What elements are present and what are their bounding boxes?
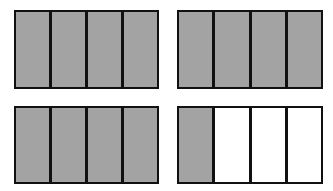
shaded-part	[124, 12, 157, 87]
shaded-part	[52, 108, 85, 182]
shaded-part	[88, 108, 121, 182]
shaded-part	[16, 12, 49, 87]
shaded-part	[179, 12, 212, 87]
fraction-bar-4	[177, 106, 323, 184]
shaded-part	[215, 12, 248, 87]
shaded-part	[288, 12, 321, 87]
unshaded-part	[215, 108, 248, 182]
shaded-part	[52, 12, 85, 87]
unshaded-part	[252, 108, 285, 182]
shaded-part	[252, 12, 285, 87]
fraction-bar-2	[177, 10, 323, 89]
unshaded-part	[288, 108, 321, 182]
shaded-part	[124, 108, 157, 182]
shaded-part	[179, 108, 212, 182]
fraction-bar-1	[14, 10, 159, 89]
shaded-part	[16, 108, 49, 182]
shaded-part	[88, 12, 121, 87]
fraction-bar-3	[14, 106, 159, 184]
